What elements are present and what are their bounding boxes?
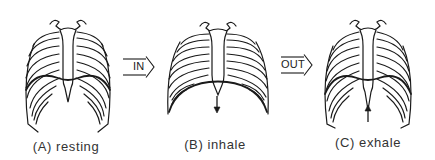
- transition-arrow-in: IN: [122, 56, 156, 78]
- ribcage-resting-illustration: [22, 16, 114, 134]
- panel-resting: (A) resting: [0, 0, 135, 160]
- caption-resting: (A) resting: [33, 139, 100, 154]
- diaphragm-arrow-up-icon: [364, 104, 372, 122]
- transition-label-in: IN: [133, 60, 145, 72]
- transition-label-out: OUT: [281, 58, 305, 70]
- caption-inhale: (B) inhale: [184, 137, 246, 152]
- diaphragm-arrow-down-icon: [213, 96, 221, 114]
- transition-arrow-out: OUT: [280, 54, 314, 76]
- caption-exhale: (C) exhale: [335, 135, 401, 150]
- panel-exhale: (C) exhale: [315, 0, 435, 160]
- panel-inhale: (B) inhale: [160, 0, 280, 160]
